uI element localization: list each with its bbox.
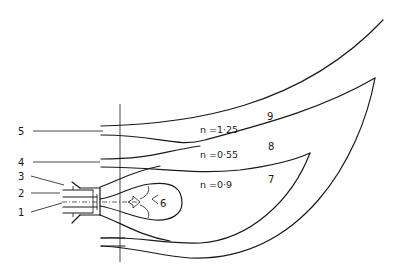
label-4: 4 bbox=[18, 157, 24, 168]
flow-chevron bbox=[152, 195, 158, 204]
label-6: 6 bbox=[160, 198, 166, 209]
leader-1 bbox=[31, 203, 62, 212]
region-8-upper-line bbox=[101, 146, 200, 159]
flow-arc-lower bbox=[140, 205, 149, 218]
flow-diagram: 5 4 3 2 1 6 7 8 9 n =1·25 n =0·55 n =0·9 bbox=[0, 0, 399, 279]
label-7: 7 bbox=[268, 174, 274, 185]
leader-3 bbox=[31, 176, 64, 185]
label-2: 2 bbox=[18, 188, 24, 199]
burner-lower-flare bbox=[100, 215, 170, 241]
burner-assembly bbox=[63, 182, 100, 223]
n-label-region-8: n =0·55 bbox=[200, 149, 238, 160]
n-label-region-9: n =1·25 bbox=[200, 124, 238, 135]
label-5: 5 bbox=[18, 126, 24, 137]
outer-upper-boundary bbox=[101, 20, 383, 126]
label-1: 1 bbox=[18, 207, 24, 218]
label-9: 9 bbox=[267, 111, 273, 122]
label-8: 8 bbox=[268, 141, 274, 152]
label-3: 3 bbox=[18, 171, 24, 182]
flow-arc-upper bbox=[140, 186, 149, 199]
n-label-region-7: n =0·9 bbox=[200, 179, 232, 190]
